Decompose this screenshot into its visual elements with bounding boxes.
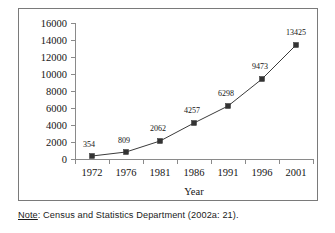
chart-frame: 16000 14000 12000 10000 8000 6000 4000 2… xyxy=(18,8,318,201)
y-tick-label: 16000 xyxy=(41,18,67,29)
x-axis-title: Year xyxy=(184,186,204,197)
line-chart-svg: 16000 14000 12000 10000 8000 6000 4000 2… xyxy=(19,9,319,202)
y-tick-label: 6000 xyxy=(46,103,67,114)
data-point-marker xyxy=(260,77,265,82)
x-tick-marks xyxy=(75,159,313,164)
x-tick-label: 1996 xyxy=(252,167,273,178)
y-tick-label: 0 xyxy=(62,154,67,165)
figure-container: 16000 14000 12000 10000 8000 6000 4000 2… xyxy=(0,0,335,233)
data-point-marker xyxy=(192,121,197,126)
x-tick-labels: 1972 1976 1981 1986 1991 1996 2001 xyxy=(82,167,307,178)
plot-area: 16000 14000 12000 10000 8000 6000 4000 2… xyxy=(19,9,319,202)
x-tick-label: 1991 xyxy=(218,167,239,178)
y-tick-labels: 16000 14000 12000 10000 8000 6000 4000 2… xyxy=(41,18,67,165)
data-point-marker xyxy=(158,139,163,144)
y-tick-label: 14000 xyxy=(41,35,67,46)
data-point-labels: 354 809 2062 4257 6298 9473 13425 xyxy=(83,28,306,149)
x-tick-label: 1976 xyxy=(116,167,137,178)
data-point-marker xyxy=(294,43,299,48)
data-point-label: 6298 xyxy=(218,89,234,98)
caption-source-text: : Census and Statistics Department (2002… xyxy=(38,210,239,220)
data-point-label: 9473 xyxy=(252,62,268,71)
data-point-label: 13425 xyxy=(286,28,306,37)
data-point-label: 809 xyxy=(118,136,130,145)
y-tick-label: 8000 xyxy=(46,86,67,97)
data-point-label: 2062 xyxy=(150,124,166,133)
y-tick-label: 12000 xyxy=(41,52,67,63)
data-point-marker xyxy=(226,104,231,109)
data-point-marker xyxy=(90,154,95,159)
y-tick-label: 2000 xyxy=(46,137,67,148)
y-tick-marks xyxy=(71,23,75,159)
data-point-marker xyxy=(124,150,129,155)
data-point-label: 354 xyxy=(83,140,95,149)
caption-note-label: Note xyxy=(18,210,38,220)
x-tick-label: 1972 xyxy=(82,167,103,178)
x-tick-label: 2001 xyxy=(286,167,307,178)
x-tick-label: 1986 xyxy=(184,167,205,178)
x-tick-label: 1981 xyxy=(150,167,171,178)
y-tick-label: 4000 xyxy=(46,120,67,131)
data-point-label: 4257 xyxy=(184,106,200,115)
y-tick-label: 10000 xyxy=(41,69,67,80)
figure-caption: Note: Census and Statistics Department (… xyxy=(18,210,328,220)
